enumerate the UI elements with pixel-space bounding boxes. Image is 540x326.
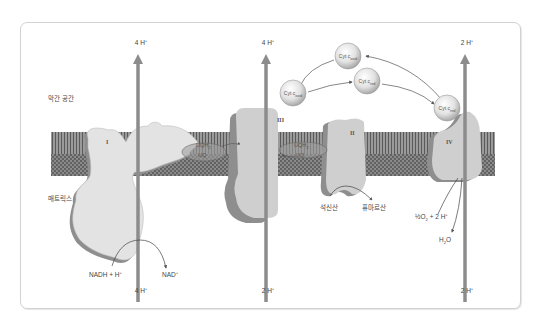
complex-iv xyxy=(427,112,482,182)
complex-iii xyxy=(224,108,278,223)
oxygen-reactant-label: ½O2 + 2 H+ xyxy=(415,214,448,221)
proton-label-i-top: 4 H+ xyxy=(135,40,148,47)
cyt-c-red-right-label: Cyt cred xyxy=(439,105,456,111)
complex-ii-label: II xyxy=(350,130,355,136)
uqh2-right-label: UQH2 xyxy=(294,142,309,148)
cyt-c-oxid-left-label: Cyt coxid xyxy=(284,90,302,96)
proton-label-iii-bottom: 2 H+ xyxy=(262,288,275,295)
proton-arrow-complex-i xyxy=(133,54,143,302)
water-product-label: H2O xyxy=(439,237,451,244)
fumarate-label: 퓨마르산 xyxy=(362,205,386,212)
complex-iv-label: IV xyxy=(446,139,453,145)
uqh2-left-label: UQH2 xyxy=(196,142,211,148)
oxygen-input-line xyxy=(438,178,458,214)
succinate-label: 석신산 xyxy=(320,205,338,212)
cyt-c-red-middle-label: Cyt cred xyxy=(359,78,376,84)
proton-label-iv-bottom: 2 H+ xyxy=(461,288,474,295)
complex-ii xyxy=(321,118,366,196)
proton-label-iii-top: 4 H+ xyxy=(262,40,275,47)
uq-left-label: UQ xyxy=(198,152,206,158)
electron-transport-chain-diagram xyxy=(0,0,540,326)
nadh-label: NADH + H+ xyxy=(89,272,122,279)
proton-label-iv-top: 2 H+ xyxy=(461,40,474,47)
matrix-label: 매트릭스 xyxy=(48,196,72,203)
complex-i-label: I xyxy=(106,139,108,145)
nad-label: NAD+ xyxy=(162,272,178,279)
uq-right-label: UQ xyxy=(296,152,304,158)
complex-i xyxy=(70,122,198,263)
intermembrane-space-label: 막간 공간 xyxy=(48,96,74,103)
proton-label-i-bottom: 4 H+ xyxy=(135,288,148,295)
complex-iii-label: III xyxy=(277,117,284,123)
water-output-arrow xyxy=(452,178,462,232)
cyt-c-oxid-top-label: Cyt coxid xyxy=(339,53,357,59)
